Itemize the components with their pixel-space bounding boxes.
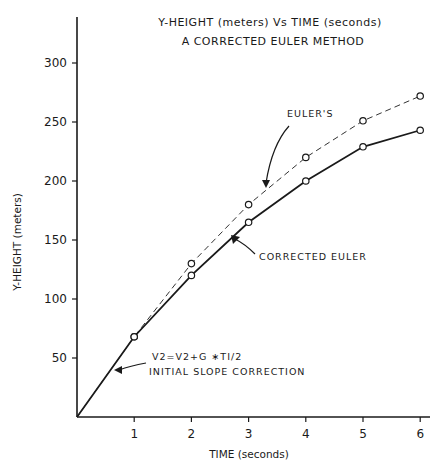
slope-correction-note: INITIAL SLOPE CORRECTION	[149, 366, 305, 377]
x-ticks: 123456	[130, 417, 424, 441]
data-point-marker	[360, 144, 366, 150]
data-point-marker	[245, 201, 251, 207]
data-point-marker	[188, 272, 194, 278]
x-tick-label: 1	[130, 427, 138, 441]
data-point-marker	[188, 260, 194, 266]
slope-annotation-arrow	[119, 363, 146, 370]
data-point-marker	[131, 334, 137, 340]
y-tick-label: 100	[44, 292, 67, 306]
corrected-euler-annotation: CORRECTED EULER	[259, 251, 367, 262]
data-point-marker	[303, 154, 309, 160]
chart-subtitle: A CORRECTED EULER METHOD	[182, 35, 365, 48]
x-tick-label: 4	[302, 427, 310, 441]
euler-annotation: EULER'S	[287, 108, 334, 119]
euler-markers	[131, 93, 423, 340]
data-point-marker	[360, 118, 366, 124]
x-tick-label: 6	[416, 427, 424, 441]
chart: 50100150200250300 123456 Y-HEIGHT (meter…	[0, 0, 439, 467]
y-tick-label: 200	[44, 174, 67, 188]
data-point-marker	[245, 219, 251, 225]
arrowhead-icon	[114, 366, 122, 374]
x-axis-label: TIME (seconds)	[208, 448, 289, 460]
slope-equation: V2=V2+G ∗TI/2	[152, 351, 242, 362]
y-axis-label: Y-HEIGHT (meters)	[11, 193, 23, 292]
corrected-euler-markers	[131, 127, 423, 340]
arrowhead-icon	[231, 235, 240, 244]
x-tick-label: 5	[359, 427, 367, 441]
y-tick-label: 300	[44, 56, 67, 70]
y-tick-label: 150	[44, 233, 67, 247]
y-tick-label: 50	[52, 351, 67, 365]
y-ticks: 50100150200250300	[44, 56, 77, 365]
chart-title: Y-HEIGHT (meters) Vs TIME (seconds)	[157, 16, 381, 29]
corrected-annotation-arrow	[235, 239, 255, 254]
arrowhead-icon	[262, 180, 270, 188]
x-tick-label: 2	[188, 427, 196, 441]
x-tick-label: 3	[245, 427, 253, 441]
data-point-marker	[417, 93, 423, 99]
data-point-marker	[303, 178, 309, 184]
y-tick-label: 250	[44, 115, 67, 129]
data-point-marker	[417, 127, 423, 133]
